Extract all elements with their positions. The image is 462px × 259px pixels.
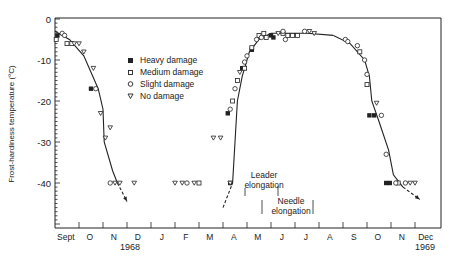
no-damage-point — [180, 181, 185, 185]
leader-elongation-annotation: Leader elongation — [244, 170, 284, 196]
x-tick-label: M — [206, 232, 213, 242]
y-tick-label: 0 — [46, 14, 51, 25]
no-damage-point — [408, 181, 413, 185]
legend: Heavy damage Medium damage Slight damage… — [128, 55, 204, 101]
slight-damage-point — [259, 35, 263, 39]
medium-damage-point — [365, 83, 369, 87]
fitted-curve — [233, 33, 271, 183]
no-damage-marker-icon — [128, 94, 133, 99]
medium-damage-point — [264, 35, 268, 39]
heavy-damage-marker-icon — [128, 58, 133, 63]
x-tick-label: O — [374, 232, 381, 242]
no-damage-point — [77, 42, 82, 46]
fitted-curve — [333, 35, 403, 187]
slight-damage-point — [245, 54, 249, 58]
x-tick-label: M — [254, 232, 261, 242]
y-tick-label: -40 — [37, 178, 51, 189]
heavy-damage-point — [55, 33, 59, 37]
heavy-damage-point — [226, 111, 230, 115]
x-tick-label: N — [399, 232, 405, 242]
data-points — [54, 29, 417, 185]
x-tick-label: A — [231, 232, 237, 242]
medium-damage-point — [262, 31, 266, 35]
no-damage-point — [312, 32, 317, 36]
x-tick-label: N — [111, 232, 117, 242]
x-tick-label: J — [304, 232, 308, 242]
legend-none-label: No damage — [140, 91, 184, 101]
no-damage-point — [98, 112, 103, 116]
frost-hardiness-chart: 0-10-20-30-40 SeptONDJFMAMJJASONDec Fros… — [0, 0, 462, 259]
y-tick-label: -30 — [37, 137, 51, 148]
heavy-damage-point — [388, 181, 392, 185]
fitted-curve — [271, 33, 333, 35]
slight-damage-point — [355, 43, 359, 47]
slight-damage-point — [185, 181, 189, 185]
x-tick-label: J — [160, 232, 164, 242]
slight-damage-point — [242, 60, 246, 64]
x-tick-label: F — [183, 232, 188, 242]
medium-damage-point — [295, 33, 299, 37]
y-axis-label: Frost-hardiness temperature (°C) — [7, 65, 16, 183]
medium-damage-point — [235, 79, 239, 83]
slight-damage-point — [108, 181, 112, 185]
x-tick-label: O — [86, 232, 93, 242]
medium-damage-point — [286, 33, 290, 37]
slight-damage-point — [283, 37, 287, 41]
heavy-damage-point — [367, 113, 371, 117]
no-damage-point — [211, 136, 216, 140]
y-axis-ticks: 0-10-20-30-40 — [37, 14, 60, 225]
legend-slight-label: Slight damage — [140, 79, 195, 89]
slight-damage-point — [379, 113, 383, 117]
slight-damage-point — [394, 181, 398, 185]
no-damage-point — [108, 126, 113, 130]
medium-damage-point — [291, 33, 295, 37]
slight-damage-point — [94, 87, 98, 91]
medium-damage-point — [197, 181, 201, 185]
medium-damage-point — [65, 42, 69, 46]
slight-damage-point — [233, 87, 237, 91]
legend-medium-label: Medium damage — [140, 67, 204, 77]
x-tick-label: J — [280, 232, 284, 242]
no-damage-point — [413, 181, 418, 185]
dashed-extension — [223, 183, 233, 208]
slight-damage-point — [254, 37, 258, 41]
medium-damage-point — [250, 46, 254, 50]
medium-damage-marker-icon — [129, 71, 133, 75]
slight-damage-point — [346, 39, 350, 43]
plot-frame — [55, 18, 441, 228]
y-tick-label: -10 — [37, 55, 51, 66]
chart-svg: 0-10-20-30-40 SeptONDJFMAMJJASONDec Fros… — [0, 0, 462, 259]
heavy-damage-point — [372, 113, 376, 117]
medium-damage-point — [358, 50, 362, 54]
x-tick-label: A — [327, 232, 333, 242]
no-damage-point — [238, 71, 243, 75]
slight-damage-point — [228, 107, 232, 111]
x-tick-label: Dec — [418, 232, 434, 242]
x-tick-label: D — [135, 232, 141, 242]
legend-heavy-label: Heavy damage — [140, 55, 197, 65]
slight-damage-point — [403, 181, 407, 185]
needle-elongation-annotation: Needle elongation — [262, 196, 313, 216]
medium-damage-point — [231, 99, 235, 103]
year-label-1968: 1968 — [120, 242, 140, 252]
leader-label-line1: Leader — [251, 170, 278, 180]
slight-damage-point — [362, 58, 366, 62]
slight-damage-point — [62, 33, 66, 37]
x-tick-label: Sept — [57, 232, 75, 242]
medium-damage-point — [54, 38, 58, 42]
no-damage-point — [218, 136, 223, 140]
y-tick-label: -20 — [37, 96, 51, 107]
no-damage-point — [374, 101, 379, 105]
no-damage-point — [276, 32, 281, 36]
slight-damage-point — [281, 29, 285, 33]
slight-damage-marker-icon — [128, 82, 133, 87]
no-damage-point — [132, 181, 137, 185]
needle-label-line1: Needle — [278, 196, 305, 206]
fitted-curve — [55, 31, 117, 183]
medium-damage-point — [243, 66, 247, 70]
slight-damage-point — [365, 72, 369, 76]
slight-damage-point — [302, 29, 306, 33]
year-label-1969b: 1969 — [415, 242, 435, 252]
heavy-damage-point — [271, 35, 275, 39]
x-axis-ticks: SeptONDJFMAMJJASONDec — [57, 222, 434, 242]
